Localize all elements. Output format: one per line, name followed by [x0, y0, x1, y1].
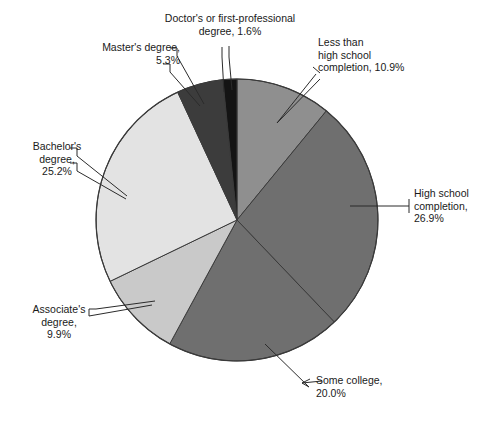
slice-label-doctor: Doctor's or first-professional degree, 1… [142, 12, 318, 37]
slice-label-master-degree: Master's degree, 5.3% [62, 41, 180, 66]
slice-label-some-college: Some college, 20.0% [316, 374, 446, 399]
slice-label-high-school-completion: High school completion, 26.9% [414, 187, 498, 225]
slice-label-less-than-high-school: Less than high school completion, 10.9% [318, 36, 448, 74]
pie-chart: Doctor's or first-professional degree, 1… [0, 0, 498, 423]
slice-label-associate-degree: Associate's degree, 9.9% [6, 303, 112, 341]
pie-slices-group [96, 79, 378, 361]
slice-label-bachelor-degree: Bachelor's degree, 25.2% [4, 140, 110, 178]
